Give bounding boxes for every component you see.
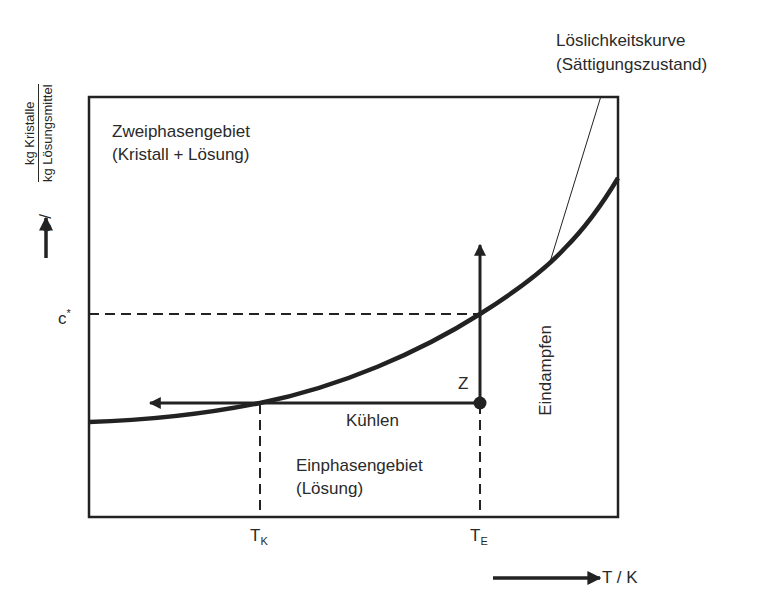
two-phase-region-subtitle: (Kristall + Lösung) xyxy=(112,144,249,165)
te-symbol: T xyxy=(470,526,480,545)
two-phase-region-title: Zweiphasengebiet xyxy=(112,121,250,142)
solubility-curve-label: Löslichkeitskurve xyxy=(556,30,685,51)
diagram-canvas xyxy=(0,0,776,610)
tk-symbol: T xyxy=(250,526,260,545)
te-label: TE xyxy=(470,525,488,552)
one-phase-region-title: Einphasengebiet xyxy=(296,455,423,476)
x-axis-label: T / K xyxy=(602,567,638,588)
y-axis-unit-numerator: kg Kristalle xyxy=(22,84,39,182)
c-star-superscript: * xyxy=(67,307,71,319)
point-z-label: Z xyxy=(458,373,468,394)
y-axis-symbol: c / xyxy=(36,214,56,232)
tk-subscript: K xyxy=(260,535,267,547)
y-axis-label: kg Kristalle kg Lösungsmittel c / xyxy=(18,60,78,270)
solubility-curve-sublabel: (Sättigungszustand) xyxy=(556,54,707,75)
c-star-symbol: c xyxy=(58,309,67,328)
y-axis-unit-fraction: kg Kristalle kg Lösungsmittel xyxy=(22,84,55,182)
evaporation-label: Eindampfen xyxy=(535,325,556,416)
point-z-marker xyxy=(474,397,487,410)
c-star-label: c* xyxy=(58,303,71,329)
tk-label: TK xyxy=(250,525,268,552)
te-subscript: E xyxy=(480,535,487,547)
y-axis-unit-denominator: kg Lösungsmittel xyxy=(39,84,55,182)
cooling-label: Kühlen xyxy=(346,410,399,431)
one-phase-region-subtitle: (Lösung) xyxy=(296,478,363,499)
